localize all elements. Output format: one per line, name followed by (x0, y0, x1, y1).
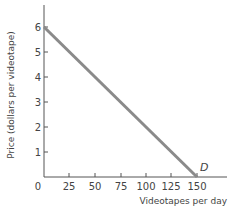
x-tick-label: 100 (136, 181, 155, 192)
y-tick-label: 3 (35, 97, 41, 108)
y-tick-label: 6 (35, 22, 41, 33)
demand-chart: 1 2 3 4 5 6 0 25 50 75 100 125 150 Video… (0, 0, 235, 212)
x-tick-label: 50 (89, 181, 102, 192)
x-tick-label: 150 (187, 181, 206, 192)
y-tick-label: 1 (35, 147, 41, 158)
y-ticks (44, 27, 48, 152)
x-tick-label: 75 (115, 181, 128, 192)
x-tick-label: 25 (63, 181, 76, 192)
y-tick-label: 2 (35, 122, 41, 133)
demand-curve (44, 27, 197, 177)
x-axis-label: Videotapes per day (140, 196, 228, 206)
curve-label: D (200, 161, 208, 174)
x-tick-label: 0 (35, 181, 41, 192)
y-tick-label: 5 (35, 47, 41, 58)
x-ticks (69, 173, 197, 177)
y-tick-label: 4 (35, 72, 41, 83)
x-tick-label: 125 (161, 181, 180, 192)
y-axis-label: Price (dollars per videotape) (6, 31, 16, 159)
